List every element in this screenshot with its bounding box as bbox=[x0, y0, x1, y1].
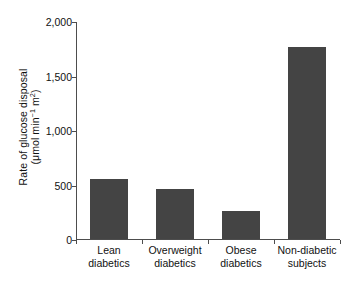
y-axis-tick-mark bbox=[72, 77, 76, 78]
bar-1 bbox=[156, 189, 194, 239]
y-axis-line bbox=[76, 22, 77, 241]
y-axis-tick-mark bbox=[72, 22, 76, 23]
x-axis-label-line: Lean diabetics bbox=[76, 244, 142, 270]
plot-area bbox=[76, 22, 340, 240]
x-axis-label-line: Overweight bbox=[142, 244, 208, 257]
y-axis-tick-labels: 05001,0001,5002,000 bbox=[38, 0, 72, 286]
bar-2 bbox=[222, 211, 260, 239]
x-axis-label-line: subjects bbox=[274, 257, 340, 270]
x-axis-label-line: diabetics bbox=[142, 257, 208, 270]
y-axis-title-exponent-minus-one: −1 bbox=[28, 109, 37, 117]
y-axis-tick-label: 2,000 bbox=[38, 16, 72, 28]
y-axis-tick-mark bbox=[72, 131, 76, 132]
y-axis-title-exponent-two: 2 bbox=[28, 93, 37, 97]
bar-3 bbox=[288, 47, 326, 239]
x-axis-label-line: Non-diabetic bbox=[274, 244, 340, 257]
x-axis-category-labels: Lean diabeticsOverweightdiabeticsObesedi… bbox=[76, 244, 340, 286]
x-axis-category-label-0: Lean diabetics bbox=[76, 244, 142, 270]
bar-0 bbox=[90, 179, 128, 239]
x-axis-category-label-2: Obesediabetics bbox=[208, 244, 274, 270]
y-axis-tick-label: 1,000 bbox=[38, 125, 72, 137]
y-axis-tick-label: 0 bbox=[38, 234, 72, 246]
x-axis-category-label-1: Overweightdiabetics bbox=[142, 244, 208, 270]
y-axis-tick-mark bbox=[72, 186, 76, 187]
x-axis-label-line: diabetics bbox=[208, 257, 274, 270]
y-axis-tick-label: 1,500 bbox=[38, 71, 72, 83]
x-axis-category-label-3: Non-diabeticsubjects bbox=[274, 244, 340, 270]
bar-chart: Rate of glucose disposal (μmol min−1 m2)… bbox=[0, 0, 350, 286]
x-axis-label-line: Obese bbox=[208, 244, 274, 257]
x-axis-tick-mark bbox=[340, 240, 341, 244]
y-axis-tick-label: 500 bbox=[38, 180, 72, 192]
y-axis-title-line-1: Rate of glucose disposal bbox=[17, 69, 29, 186]
